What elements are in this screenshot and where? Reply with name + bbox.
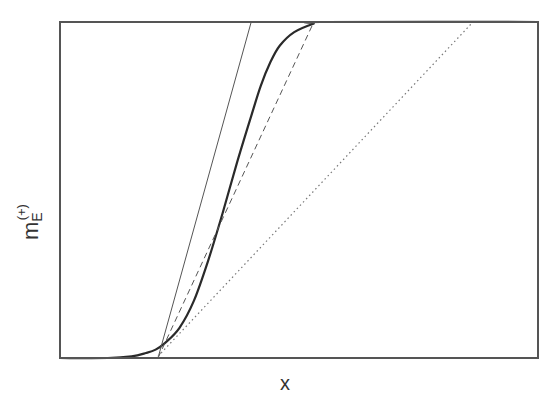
x-axis-label: x [280,372,290,395]
y-axis-label: mE(+) [14,180,44,240]
series-line-dashed [158,22,314,358]
series-layer [60,22,538,358]
series-line-solid-thick [60,22,538,358]
chart-canvas [0,0,558,410]
y-label-base: m [18,222,43,240]
series-line-solid-thin [158,22,251,358]
y-label-superscript: (+) [14,204,29,220]
y-label-subscript: E [29,212,45,221]
plot-frame [60,22,538,358]
